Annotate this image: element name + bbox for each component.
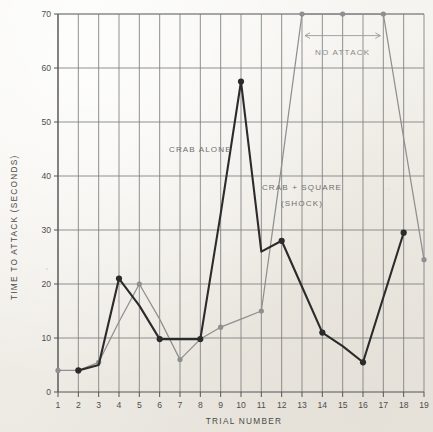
x-axis-title: TRIAL NUMBER — [206, 416, 282, 426]
data-point — [259, 308, 264, 313]
x-tick-label: 15 — [338, 400, 348, 410]
y-tick-label: 70 — [41, 9, 51, 19]
x-tick-label: 7 — [178, 400, 183, 410]
data-point — [116, 276, 122, 282]
x-tick-label: 3 — [96, 400, 101, 410]
chart-canvas: 010203040506070 123456789101112131415161… — [0, 0, 433, 432]
y-tick-label: 10 — [41, 333, 51, 343]
y-tick-label: 40 — [41, 171, 51, 181]
data-point — [360, 359, 366, 365]
x-tick-label: 11 — [257, 400, 266, 410]
data-point — [401, 230, 407, 236]
y-tick-label: 50 — [41, 117, 51, 127]
x-tick-label: 8 — [198, 400, 203, 410]
x-tick-label: 16 — [358, 400, 368, 410]
y-tick-label: 60 — [41, 63, 51, 73]
x-tick-label: 6 — [157, 400, 162, 410]
data-point — [381, 11, 386, 16]
y-tick-labels: 010203040506070 — [41, 9, 51, 397]
data-point — [279, 238, 285, 244]
x-tick-label: 14 — [318, 400, 328, 410]
data-point — [75, 367, 81, 373]
figure: 010203040506070 123456789101112131415161… — [0, 0, 433, 432]
data-point — [218, 325, 223, 330]
x-tick-label: 10 — [236, 400, 246, 410]
series-annotation-label: CRAB + SQUARE — [262, 183, 342, 192]
data-point — [319, 330, 325, 336]
data-point — [197, 336, 203, 342]
data-point — [340, 11, 345, 16]
y-tick-label: 30 — [41, 225, 51, 235]
data-point — [299, 11, 304, 16]
data-point — [137, 281, 142, 286]
x-tick-label: 1 — [56, 400, 61, 410]
series-annotation-label: (SHOCK) — [281, 199, 323, 208]
y-tick-label: 0 — [46, 387, 51, 397]
data-point — [421, 257, 426, 262]
data-point — [238, 78, 244, 84]
y-tick-label: 20 — [41, 279, 51, 289]
y-axis-title: TIME TO ATTACK (SECONDS) — [9, 154, 19, 300]
x-tick-label: 13 — [297, 400, 307, 410]
no-attack-label: NO ATTACK — [315, 48, 370, 57]
x-tick-marks — [58, 392, 424, 397]
data-point — [177, 357, 182, 362]
x-tick-label: 4 — [117, 400, 122, 410]
series-annotation-label: CRAB ALONE — [169, 145, 232, 154]
x-tick-label: 12 — [277, 400, 287, 410]
x-tick-label: 5 — [137, 400, 142, 410]
x-tick-label: 19 — [419, 400, 429, 410]
x-tick-label: 2 — [76, 400, 81, 410]
x-tick-label: 9 — [218, 400, 223, 410]
data-point — [55, 368, 60, 373]
data-point — [157, 336, 163, 342]
x-tick-labels: 12345678910111213141516171819 — [56, 400, 429, 410]
x-tick-label: 17 — [379, 400, 389, 410]
x-tick-label: 18 — [399, 400, 409, 410]
